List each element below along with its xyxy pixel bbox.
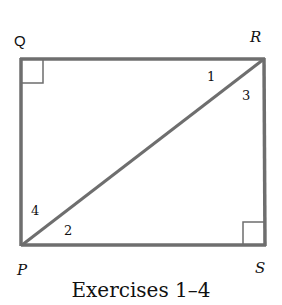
vertex-label-s: S — [255, 259, 265, 277]
figure: Q R P S 1 3 4 2 — [0, 0, 282, 305]
vertex-label-r: R — [249, 28, 261, 46]
angle-label-3: 3 — [242, 88, 250, 103]
angle-label-1: 1 — [207, 69, 215, 84]
vertex-label-p: P — [16, 261, 28, 279]
side-rs — [264, 58, 265, 246]
figure-caption: Exercises 1–4 — [0, 278, 282, 302]
right-angle-marker-s — [243, 222, 264, 244]
angle-label-2: 2 — [64, 223, 72, 238]
right-angle-marker-q — [22, 60, 43, 83]
angle-label-4: 4 — [31, 203, 39, 218]
diagonal-pr — [22, 59, 264, 245]
vertex-label-q: Q — [14, 32, 26, 49]
